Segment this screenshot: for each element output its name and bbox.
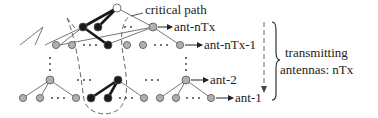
edges-critical bbox=[83, 8, 118, 98]
critical-node bbox=[94, 23, 102, 31]
critical-node bbox=[104, 41, 112, 49]
critical-node bbox=[104, 94, 112, 102]
brace bbox=[272, 22, 280, 100]
tree-search-diagram: critical path ant-nTx ant-nTx-1 ant-2 an… bbox=[0, 0, 378, 118]
label-ant-1: ant-1 bbox=[235, 90, 262, 105]
brace-label-line1: transmitting bbox=[285, 45, 348, 60]
label-ant-ntx: ant-nTx bbox=[174, 19, 216, 34]
brace-label-line2: antennas: nTx bbox=[280, 62, 354, 77]
critical-path-label: critical path bbox=[145, 2, 207, 17]
label-ant-ntx-1: ant-nTx-1 bbox=[204, 37, 256, 52]
critical-node bbox=[87, 94, 95, 102]
root-node bbox=[113, 4, 121, 12]
critical-node bbox=[114, 76, 122, 84]
critical-node bbox=[79, 23, 87, 31]
ellipsis-dots bbox=[49, 26, 200, 99]
label-ant-2: ant-2 bbox=[210, 72, 237, 87]
